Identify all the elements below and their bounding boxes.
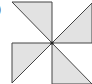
triangle-left [12,43,52,83]
center-point [50,41,53,44]
triangle-top-right [52,3,92,43]
triangle-top-left [12,2,52,43]
triangle-bottom-right [52,43,92,84]
pinwheel-diagram [0,0,92,84]
